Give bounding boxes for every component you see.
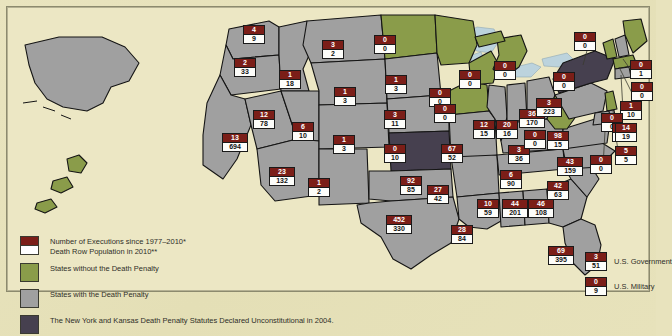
state-label-ny: 00 — [553, 72, 575, 91]
legend-label-with-penalty: States with the Death Penalty — [50, 290, 148, 300]
state-label-co: 13 — [333, 135, 355, 154]
executions-value-nm: 1 — [308, 178, 330, 188]
deathrow-value-vt: 0 — [574, 42, 596, 51]
deathrow-value-sd: 3 — [385, 85, 407, 94]
deathrow-value-ut: 10 — [292, 132, 314, 141]
deathrow-value-pa: 223 — [536, 108, 562, 117]
executions-value-ct: 1 — [620, 101, 642, 111]
state-label-sd: 13 — [385, 75, 407, 94]
executions-value-sc: 42 — [547, 181, 569, 191]
deathrow-value-nv: 78 — [253, 120, 275, 129]
state-label-ne: 311 — [384, 110, 406, 129]
deathrow-value-wy: 3 — [334, 97, 356, 106]
executions-value-md: 14 — [615, 123, 637, 133]
executions-value-fl: 69 — [548, 246, 574, 256]
legend-text-unconstitutional: The New York and Kansas Death Penalty St… — [50, 315, 334, 326]
executions-value-mo: 67 — [441, 144, 463, 154]
legend-swatch-gray — [20, 289, 39, 308]
deathrow-value-wv: 0 — [524, 140, 546, 149]
deathrow-value-ar: 42 — [427, 195, 449, 204]
deathrow-value-mi: 0 — [494, 71, 516, 80]
legend-swatch-green — [20, 263, 39, 282]
executions-value-ks: 0 — [384, 144, 406, 154]
legend-swatch-split — [20, 236, 39, 255]
state-label-ia: 00 — [434, 104, 456, 123]
state-hawaii — [67, 155, 87, 173]
deathrow-value-nd: 0 — [374, 45, 396, 54]
deathrow-value-tn: 90 — [500, 180, 522, 189]
legend-label-unconstitutional: The New York and Kansas Death Penalty St… — [50, 316, 334, 326]
state-label-va: 9815 — [547, 131, 569, 150]
us-military-deathrow: 9 — [585, 287, 607, 296]
executions-value-ut: 6 — [292, 122, 314, 132]
legend-swatch-deathrow — [20, 245, 39, 255]
executions-value-in: 20 — [496, 120, 518, 130]
legend-swatch-purple — [20, 315, 39, 334]
deathrow-value-ct: 10 — [620, 111, 642, 120]
state-label-nv: 1278 — [253, 110, 275, 129]
deathrow-value-ok: 85 — [400, 186, 422, 195]
executions-value-wi: 0 — [459, 70, 481, 80]
legend-text-no-penalty: States without the Death Penalty — [50, 263, 159, 274]
executions-value-co: 1 — [333, 135, 355, 145]
deathrow-value-fl: 395 — [548, 256, 574, 265]
executions-value-al: 44 — [502, 199, 528, 209]
deathrow-value-ny: 0 — [553, 82, 575, 91]
legend-text-with-penalty: States with the Death Penalty — [50, 289, 148, 300]
executions-value-wy: 1 — [334, 87, 356, 97]
state-label-tn: 690 — [500, 170, 522, 189]
legend-label-deathrow: Death Row Population in 2010** — [50, 247, 186, 257]
deathrow-value-al: 201 — [502, 209, 528, 218]
deathrow-value-co: 3 — [333, 145, 355, 154]
state-alaska — [25, 37, 139, 111]
executions-value-mn: 0 — [429, 88, 451, 98]
state-hawaii-2 — [51, 177, 73, 193]
deathrow-value-mt: 2 — [322, 50, 344, 59]
deathrow-value-de: 5 — [615, 156, 637, 165]
state-connecticut — [615, 67, 631, 79]
deathrow-value-md: 19 — [615, 133, 637, 142]
deathrow-value-ca: 694 — [222, 143, 248, 152]
executions-value-id: 1 — [279, 70, 301, 80]
executions-value-ri: 0 — [601, 113, 623, 123]
state-label-sc: 4263 — [547, 181, 569, 200]
deathrow-value-wa: 9 — [243, 35, 265, 44]
state-label-dc: 00 — [590, 155, 612, 174]
legend-swatch-executions — [20, 236, 39, 245]
executions-value-ca: 13 — [222, 133, 248, 143]
state-label-il: 1215 — [473, 120, 495, 139]
deathrow-value-in: 16 — [496, 130, 518, 139]
executions-value-nd: 0 — [374, 35, 396, 45]
legend-label-no-penalty: States without the Death Penalty — [50, 264, 159, 274]
state-label-la: 2884 — [451, 225, 473, 244]
deathrow-value-ma: 0 — [631, 92, 653, 101]
state-label-al: 44201 — [502, 199, 528, 218]
state-label-tx: 452330 — [386, 215, 412, 234]
deathrow-value-sc: 63 — [547, 191, 569, 200]
legend-item-with-penalty: States with the Death Penalty — [20, 289, 420, 308]
state-label-id: 118 — [279, 70, 301, 89]
executions-value-la: 28 — [451, 225, 473, 235]
deathrow-value-id: 18 — [279, 80, 301, 89]
state-label-or: 233 — [234, 58, 256, 77]
deathrow-value-or: 33 — [234, 68, 256, 77]
state-label-ks: 010 — [384, 144, 406, 163]
state-label-in: 2016 — [496, 120, 518, 139]
legend-item-unconstitutional: The New York and Kansas Death Penalty St… — [20, 315, 420, 334]
deathrow-value-ks: 10 — [384, 154, 406, 163]
deathrow-value-ky: 36 — [508, 155, 530, 164]
deathrow-value-la: 84 — [451, 235, 473, 244]
executions-value-ne: 3 — [384, 110, 406, 120]
deathrow-value-ia: 0 — [434, 114, 456, 123]
map-legend: Number of Executions since 1977–2010* De… — [20, 236, 420, 336]
state-label-wy: 13 — [334, 87, 356, 106]
deathrow-value-il: 15 — [473, 130, 495, 139]
state-label-nh: 01 — [630, 60, 652, 79]
deathrow-value-ga: 108 — [528, 209, 554, 218]
executions-value-sd: 1 — [385, 75, 407, 85]
executions-value-wv: 0 — [524, 130, 546, 140]
state-label-ct: 110 — [620, 101, 642, 120]
us-government-values: 3 51 — [585, 252, 607, 271]
legend-item-executions: Number of Executions since 1977–2010* De… — [20, 236, 420, 256]
deathrow-value-ms: 59 — [477, 209, 499, 218]
